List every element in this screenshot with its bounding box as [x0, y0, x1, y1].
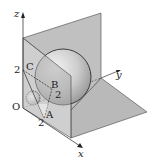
y-axis-label: y — [115, 69, 122, 80]
origin-label: O — [12, 101, 20, 112]
x-axis-label: x — [78, 148, 84, 159]
z-tick-label: 2 — [14, 64, 20, 75]
z-axis-arrow-icon — [21, 12, 25, 18]
y-tick-label: 2 — [55, 89, 61, 100]
x-tick-label: 2 — [38, 117, 44, 128]
point-C-label: C — [26, 61, 34, 72]
z-axis-label: z — [13, 8, 20, 19]
point-A-label: A — [45, 109, 54, 120]
diagram-3d-sphere: z y x O C B A 2 2 2 — [0, 0, 152, 166]
